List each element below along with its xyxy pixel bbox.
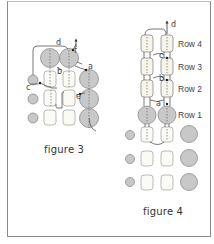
- label-c: c: [159, 51, 163, 60]
- row-label-1: Row 1: [178, 110, 202, 120]
- label-a: a: [156, 99, 161, 108]
- label-d: d: [56, 38, 61, 47]
- row-label-3: Row 3: [178, 62, 202, 72]
- label-f: f: [74, 46, 77, 55]
- label-b: b: [159, 74, 164, 83]
- row-label-4: Row 4: [178, 39, 202, 49]
- label-b: b: [57, 67, 62, 76]
- figure-4-caption: figure 4: [143, 206, 183, 217]
- label-e: e: [76, 92, 81, 101]
- label-a: a: [88, 62, 93, 71]
- row-label-2: Row 2: [178, 84, 202, 94]
- figure-3-caption: figure 3: [44, 144, 84, 155]
- label-c: c: [26, 83, 30, 92]
- label-d: d: [171, 20, 176, 29]
